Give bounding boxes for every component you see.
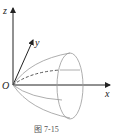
paraboloid-inner-lower xyxy=(13,85,62,100)
x-axis-label: x xyxy=(104,88,110,99)
y-axis xyxy=(13,40,33,85)
origin-label: O xyxy=(2,80,9,91)
paraboloid-dashed-curve xyxy=(13,70,60,85)
y-axis-label: y xyxy=(34,37,40,48)
figure-caption: 图 7-15 xyxy=(34,125,59,134)
cross-section-ellipse xyxy=(57,53,83,119)
paraboloid-upper-edge xyxy=(13,53,70,85)
paraboloid-diagram: z y x O 图 7-15 xyxy=(0,0,118,135)
z-axis-label: z xyxy=(2,5,7,16)
